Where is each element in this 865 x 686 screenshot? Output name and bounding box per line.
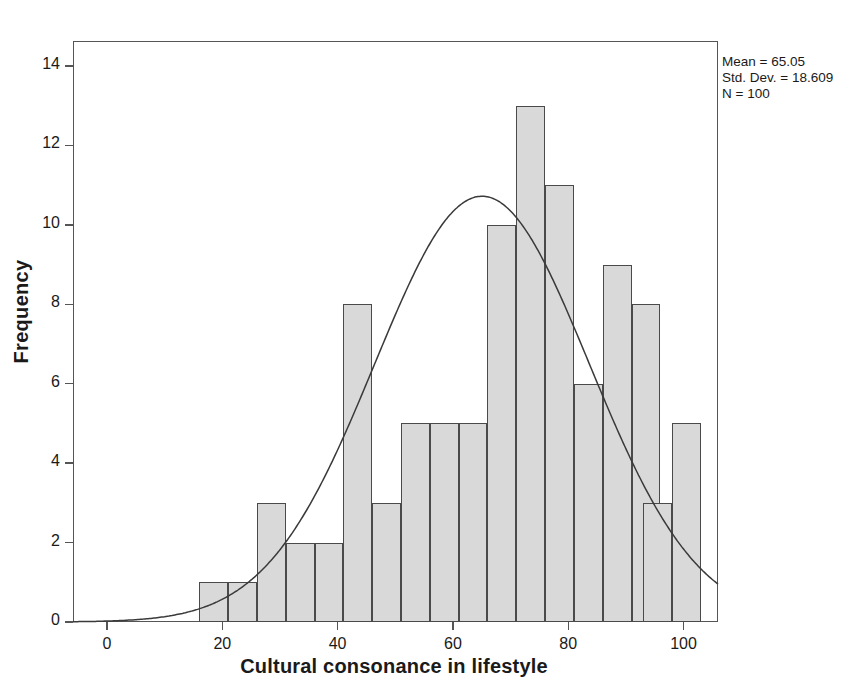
y-tick-mark xyxy=(65,224,73,225)
x-axis-title: Cultural consonance in lifestyle xyxy=(107,655,681,678)
n-label: N = 100 xyxy=(722,86,833,102)
histogram-bar xyxy=(315,543,344,622)
histogram-bar xyxy=(574,384,603,622)
histogram-bar xyxy=(487,225,516,622)
x-tick-label: 0 xyxy=(77,635,137,653)
y-tick-mark xyxy=(65,383,73,384)
y-tick-label: 14 xyxy=(42,55,60,73)
x-tick-label: 20 xyxy=(192,635,252,653)
histogram-bar xyxy=(372,503,401,622)
x-tick-mark xyxy=(337,622,338,630)
std-dev-label: Std. Dev. = 18.609 xyxy=(722,70,833,86)
y-tick-label: 4 xyxy=(51,452,60,470)
histogram-bar xyxy=(643,503,672,622)
x-tick-mark xyxy=(568,622,569,630)
y-axis-title-text: Frequency xyxy=(11,259,34,363)
x-tick-label: 60 xyxy=(423,635,483,653)
histogram-bar xyxy=(228,582,257,622)
histogram-bar xyxy=(459,423,488,622)
histogram-bar xyxy=(286,543,315,622)
histogram-bar xyxy=(257,503,286,622)
y-tick-mark xyxy=(65,462,73,463)
y-axis-title: Frequency xyxy=(2,0,42,622)
x-tick-label: 80 xyxy=(538,635,598,653)
y-tick-mark xyxy=(65,145,73,146)
histogram-bar xyxy=(603,265,632,622)
histogram-bar xyxy=(343,304,372,622)
x-tick-mark xyxy=(452,622,453,630)
histogram-bar xyxy=(401,423,430,622)
histogram-bar xyxy=(545,185,574,622)
y-tick-label: 2 xyxy=(51,532,60,550)
y-tick-mark xyxy=(65,542,73,543)
y-tick-mark xyxy=(65,304,73,305)
x-tick-mark xyxy=(106,622,107,630)
y-tick-mark xyxy=(65,65,73,66)
y-tick-label: 0 xyxy=(51,611,60,629)
x-tick-mark xyxy=(222,622,223,630)
y-tick-label: 10 xyxy=(42,214,60,232)
statistics-annotation: Mean = 65.05 Std. Dev. = 18.609 N = 100 xyxy=(722,54,833,102)
x-tick-label: 100 xyxy=(654,635,714,653)
y-tick-label: 12 xyxy=(42,134,60,152)
histogram-bar xyxy=(430,423,459,622)
y-tick-label: 6 xyxy=(51,373,60,391)
histogram-figure: Frequency Cultural consonance in lifesty… xyxy=(0,0,865,686)
y-tick-mark xyxy=(65,621,73,622)
histogram-bar xyxy=(672,423,701,622)
y-tick-label: 8 xyxy=(51,293,60,311)
x-tick-label: 40 xyxy=(308,635,368,653)
histogram-bar xyxy=(516,106,545,622)
x-tick-mark xyxy=(683,622,684,630)
mean-label: Mean = 65.05 xyxy=(722,54,833,70)
histogram-bar xyxy=(199,582,228,622)
